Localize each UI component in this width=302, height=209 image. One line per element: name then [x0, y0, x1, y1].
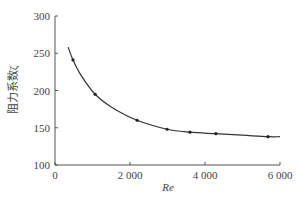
y-axis: 100150200250300 — [34, 10, 59, 171]
chart: 100150200250300 02 0004 0006 000 Re 阻力系数… — [0, 0, 302, 209]
plot-area — [68, 47, 280, 138]
data-point-marker — [94, 93, 97, 96]
x-tick-label: 6 000 — [268, 169, 293, 181]
y-tick-label: 250 — [34, 47, 51, 59]
y-tick-label: 200 — [34, 85, 51, 97]
data-point-marker — [71, 58, 74, 61]
y-axis-title: 阻力系数ζ — [7, 65, 20, 114]
data-point-marker — [214, 132, 217, 135]
data-point-marker — [166, 128, 169, 131]
y-tick-label: 100 — [34, 159, 51, 171]
y-tick-label: 150 — [34, 122, 51, 134]
data-point-marker — [188, 131, 191, 134]
data-point-marker — [136, 119, 139, 122]
x-tick-label: 4 000 — [193, 169, 218, 181]
x-tick-label: 2 000 — [118, 169, 143, 181]
fit-curve — [68, 47, 280, 137]
x-tick-label: 0 — [52, 169, 58, 181]
y-tick-label: 300 — [34, 10, 51, 22]
x-axis-title: Re — [161, 181, 174, 193]
x-axis: 02 0004 0006 000 — [52, 162, 293, 181]
data-point-marker — [266, 135, 269, 138]
